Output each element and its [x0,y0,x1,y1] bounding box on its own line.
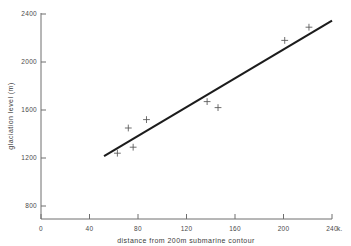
data-point-marker [306,24,313,31]
data-point-marker [215,104,222,111]
chart-canvas: 8001200160020002400 04080120160200240 di… [0,0,351,246]
data-point-marker [125,125,132,132]
x-tick-label: 120 [181,225,193,232]
regression-trend-line [104,21,332,157]
y-tick-label: 1200 [21,154,37,161]
x-tick-label: 40 [86,225,94,232]
data-point-marker [204,98,211,105]
scatter-plot-figure: 8001200160020002400 04080120160200240 di… [0,0,351,246]
data-point-marker [281,37,288,44]
y-axis: 8001200160020002400 [21,10,46,219]
x-tick-label: 80 [134,225,142,232]
x-tick-label: 0 [39,225,43,232]
x-axis: 04080120160200240 [39,214,338,232]
y-tick-label: 2400 [21,10,37,17]
y-tick-label: 800 [25,202,37,209]
x-axis-unit-label: k. [337,225,343,232]
x-axis-title: distance from 200m submarine contour [117,237,255,244]
y-axis-ticks [41,14,46,206]
y-axis-title: glaciation level (m) [7,82,15,149]
y-tick-label: 1600 [21,106,37,113]
x-axis-tick-labels: 04080120160200240 [39,225,338,232]
data-point-marker [143,116,150,123]
y-axis-tick-labels: 8001200160020002400 [21,10,37,209]
data-point-marker [130,144,137,151]
y-tick-label: 2000 [21,58,37,65]
x-tick-label: 200 [278,225,290,232]
x-tick-label: 160 [229,225,241,232]
x-axis-ticks [41,214,332,219]
